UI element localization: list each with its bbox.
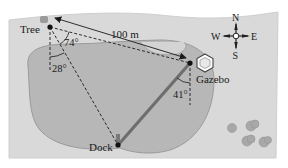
gazebo-icon	[197, 54, 213, 72]
tree-point	[47, 24, 52, 29]
dock-point	[115, 142, 120, 147]
distance-label: 100 m	[111, 28, 139, 40]
angle-41-label: 41°	[173, 89, 188, 100]
gazebo-label: Gazebo	[196, 73, 230, 85]
tree-icon	[40, 16, 48, 23]
lake-diagram: Tree Gazebo Dock 100 m 74° 28° 41° N S W…	[0, 0, 288, 168]
compass-east-label: E	[251, 31, 257, 42]
compass-north-label: N	[232, 12, 239, 23]
compass-west-label: W	[211, 31, 221, 42]
angle-74-label: 74°	[64, 37, 79, 48]
angle-28-label: 28°	[52, 63, 67, 74]
dock-label: Dock	[89, 141, 113, 153]
tree-label: Tree	[20, 23, 40, 35]
compass-south-label: S	[233, 50, 239, 61]
gazebo-point	[187, 60, 192, 65]
